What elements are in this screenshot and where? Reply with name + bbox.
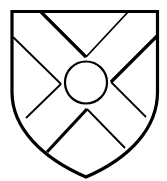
shield-diagram: Heraldic shield with a saltire (X-cross)… <box>0 0 167 181</box>
right-upper-thick-edge <box>111 36 157 82</box>
left-upper-thin-edge <box>13 37 61 84</box>
central-roundel <box>65 62 107 104</box>
left-lower-thin-edge <box>26 84 61 118</box>
upper-left-thick-edge <box>41 12 86 57</box>
upper-right-thin-edge <box>86 12 128 57</box>
right-lower-thin-edge <box>111 82 146 117</box>
lower-left-thick-edge <box>47 109 87 152</box>
lower-right-thin-edge <box>87 109 125 148</box>
shield-svg <box>0 0 167 181</box>
